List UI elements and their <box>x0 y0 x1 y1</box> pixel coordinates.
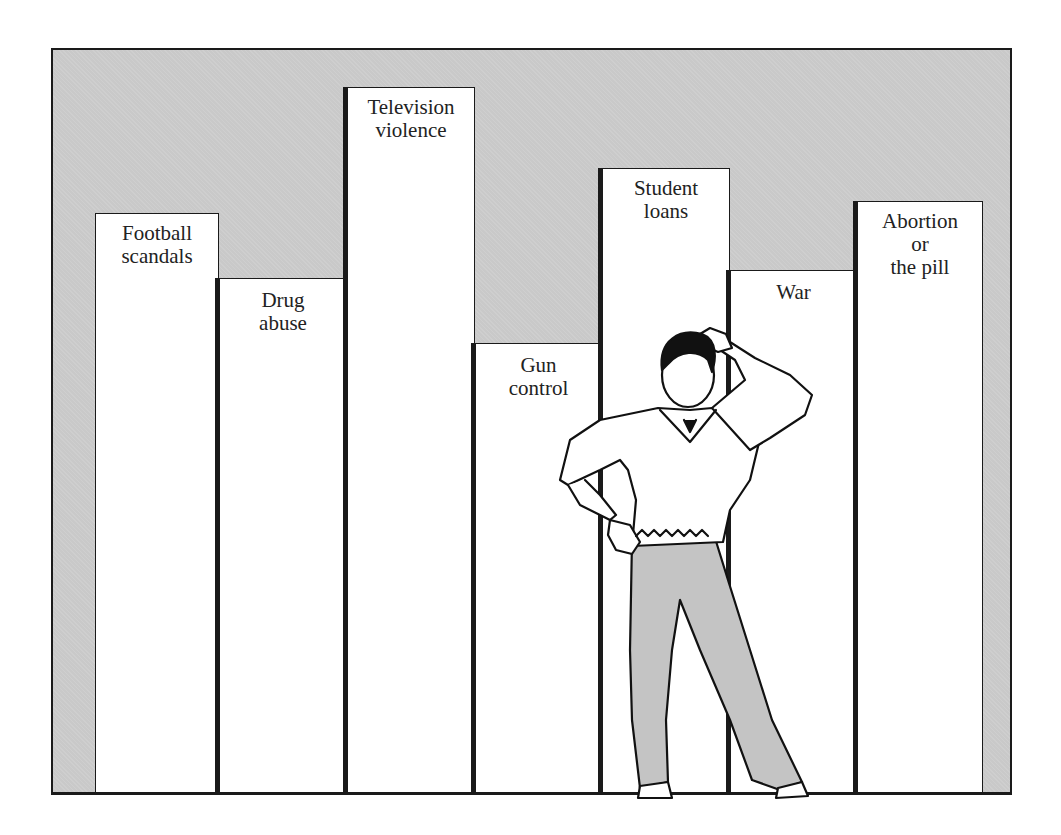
bar-label: Student loans <box>603 177 729 223</box>
chart-baseline <box>51 792 1012 795</box>
puzzled-man-illustration <box>540 320 830 800</box>
bar-drug-abuse: Drug abuse <box>219 278 347 794</box>
bar-label: Drug abuse <box>220 289 346 335</box>
pants <box>630 538 802 790</box>
bar-label: Football scandals <box>96 222 218 268</box>
bar-label: Abortion or the pill <box>858 210 982 279</box>
bar-football-scandals: Football scandals <box>95 213 219 794</box>
bar-label: War <box>731 281 856 304</box>
bar-abortion-or-the-pill: Abortion or the pill <box>857 201 983 794</box>
bar-television-violence: Television violence <box>347 87 475 794</box>
bar-label: Television violence <box>348 96 474 142</box>
